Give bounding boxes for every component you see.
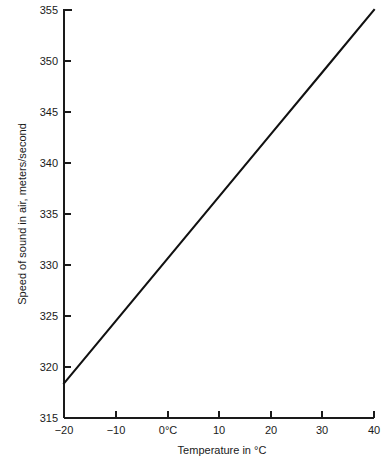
x-tick-label-20: 20	[265, 424, 277, 436]
x-tick-label-0: 0°C	[159, 424, 178, 436]
y-tick-label-335: 335	[40, 208, 58, 220]
data-series-speed-of-sound	[64, 10, 374, 383]
y-axis-tick-labels: 355 350 345 340 335 330 325 320 315	[40, 4, 58, 424]
y-tick-label-320: 320	[40, 361, 58, 373]
x-tick-label-40: 40	[368, 424, 380, 436]
x-tick-label-minus20: −20	[55, 424, 74, 436]
x-tick-label-10: 10	[213, 424, 225, 436]
y-tick-label-340: 340	[40, 157, 58, 169]
x-axis-title: Temperature in °C	[178, 444, 267, 456]
speed-of-sound-line-chart: 355 350 345 340 335 330 325 320 315 −20 …	[0, 0, 392, 463]
y-axis-ticks	[64, 61, 71, 418]
y-tick-label-345: 345	[40, 106, 58, 118]
y-tick-label-315: 315	[40, 412, 58, 424]
x-tick-label-30: 30	[316, 424, 328, 436]
y-tick-label-330: 330	[40, 259, 58, 271]
x-tick-label-minus10: −10	[107, 424, 126, 436]
x-axis-tick-labels: −20 −10 0°C 10 20 30 40	[55, 424, 380, 436]
chart-container: 355 350 345 340 335 330 325 320 315 −20 …	[0, 0, 392, 463]
y-tick-label-355: 355	[40, 4, 58, 16]
y-tick-label-325: 325	[40, 310, 58, 322]
y-tick-label-350: 350	[40, 55, 58, 67]
y-axis-title: Speed of sound in air, meters/second	[16, 123, 28, 305]
x-axis-ticks	[64, 411, 374, 418]
